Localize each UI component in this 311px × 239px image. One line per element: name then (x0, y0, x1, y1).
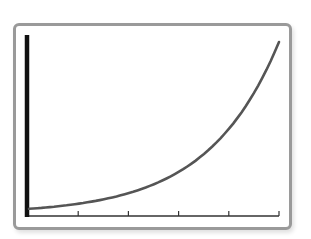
chart-plot (0, 0, 311, 239)
data-curve (29, 42, 279, 209)
